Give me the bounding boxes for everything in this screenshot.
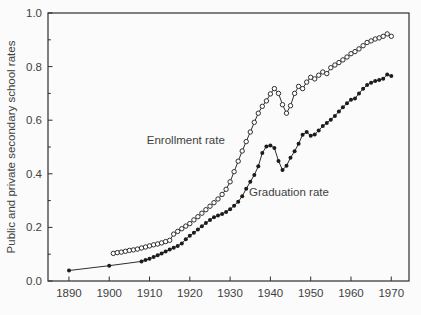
graduation-data-point [172, 246, 176, 250]
x-axis-tick-label: 1930 [217, 287, 243, 299]
enrollment-data-point [260, 104, 264, 108]
enrollment-data-point [188, 221, 192, 225]
enrollment-data-point [300, 86, 304, 90]
graduation-data-point [369, 81, 373, 85]
y-axis-tick-label: 0.2 [26, 221, 42, 233]
graduation-data-point [248, 180, 252, 184]
graduation-data-point [321, 124, 325, 128]
enrollment-data-point [292, 91, 296, 95]
graduation-data-point [180, 242, 184, 246]
y-axis-tick-label: 0.6 [26, 114, 42, 126]
enrollment-data-point [192, 218, 196, 222]
graduation-data-point [148, 257, 152, 261]
enrollment-data-point [224, 187, 228, 191]
y-axis-tick-label: 0.0 [26, 275, 42, 287]
enrollment-data-point [236, 159, 240, 163]
graduation-data-point [260, 151, 264, 155]
enrollment-label: Enrollment rate [147, 134, 225, 146]
enrollment-data-point [172, 232, 176, 236]
x-axis-tick-label: 1970 [378, 287, 404, 299]
enrollment-data-point [200, 211, 204, 215]
graduation-data-point [192, 231, 196, 235]
y-axis-tick-label: 0.8 [26, 61, 42, 73]
graduation-data-point [337, 110, 341, 114]
y-axis-tick-label: 0.4 [26, 168, 43, 180]
graduation-data-point [168, 248, 172, 252]
enrollment-data-point [345, 55, 349, 59]
enrollment-data-point [168, 238, 172, 242]
enrollment-data-point [248, 130, 252, 134]
enrollment-data-point [389, 34, 393, 38]
graduation-data-point [144, 258, 148, 262]
enrollment-data-point [325, 71, 329, 75]
x-axis-tick-label: 1940 [258, 287, 284, 299]
graduation-data-point [208, 218, 212, 222]
graduation-data-point [107, 264, 111, 268]
graduation-data-point [305, 130, 309, 134]
graduation-data-point [345, 101, 349, 105]
graduation-data-point [389, 74, 393, 78]
enrollment-data-point [220, 192, 224, 196]
enrollment-data-point [264, 99, 268, 103]
enrollment-data-point [244, 139, 248, 143]
graduation-data-point [361, 87, 365, 91]
graduation-data-point [385, 73, 389, 77]
enrollment-data-point [272, 86, 276, 90]
graduation-data-point [373, 79, 377, 83]
graduation-data-point [240, 194, 244, 198]
graduation-data-point [232, 204, 236, 208]
graduation-data-point [184, 237, 188, 241]
graduation-data-point [349, 98, 353, 102]
plot-area: 1890190019101920193019401950196019700.00… [26, 7, 409, 299]
x-axis-tick-label: 1950 [298, 287, 324, 299]
enrollment-data-point [276, 91, 280, 95]
graduation-data-point [252, 173, 256, 177]
graduation-data-point [281, 168, 285, 172]
graduation-data-point [325, 121, 329, 125]
graduation-data-point [164, 250, 168, 254]
enrollment-data-point [353, 49, 357, 53]
graduation-data-point [381, 77, 385, 81]
graduation-data-point [228, 207, 232, 211]
graduation-data-point [309, 134, 313, 138]
graduation-data-point [365, 83, 369, 87]
graduation-data-point [377, 78, 381, 82]
line-chart-canvas: 1890190019101920193019401950196019700.00… [0, 0, 421, 315]
graduation-data-point [293, 149, 297, 153]
graduation-data-point [188, 234, 192, 238]
graduation-data-point [285, 164, 289, 168]
graduation-data-point [200, 224, 204, 228]
enrollment-data-point [313, 77, 317, 81]
graduation-data-point [160, 251, 164, 255]
graduation-data-point [264, 145, 268, 149]
x-axis-tick-label: 1900 [96, 287, 122, 299]
graduation-data-point [156, 253, 160, 257]
enrollment-data-point [212, 201, 216, 205]
graduation-data-point [297, 142, 301, 146]
graduation-data-point [244, 187, 248, 191]
graduation-data-point [301, 133, 305, 137]
enrollment-data-point [357, 47, 361, 51]
enrollment-data-point [208, 204, 212, 208]
enrollment-data-point [288, 104, 292, 108]
y-axis-tick-label: 1.0 [26, 7, 42, 19]
graduation-data-point [353, 97, 357, 101]
graduation-data-point [357, 91, 361, 95]
graduation-data-point [152, 255, 156, 259]
graduation-data-point [333, 114, 337, 118]
enrollment-data-point [240, 149, 244, 153]
graduation-data-point [317, 128, 321, 132]
enrollment-data-point [305, 80, 309, 84]
graduation-label: Graduation rate [249, 186, 329, 198]
enrollment-data-point [361, 44, 365, 48]
graduation-data-point [268, 143, 272, 147]
x-axis-tick-label: 1910 [137, 287, 163, 299]
graduation-data-point [176, 244, 180, 248]
enrollment-data-point [216, 197, 220, 201]
x-axis-tick-label: 1960 [338, 287, 364, 299]
y-axis-title: Public and private secondary school rate… [5, 40, 17, 253]
enrollment-data-point [232, 170, 236, 174]
enrollment-data-point [176, 229, 180, 233]
enrollment-data-point [341, 58, 345, 62]
enrollment-data-point [196, 215, 200, 219]
